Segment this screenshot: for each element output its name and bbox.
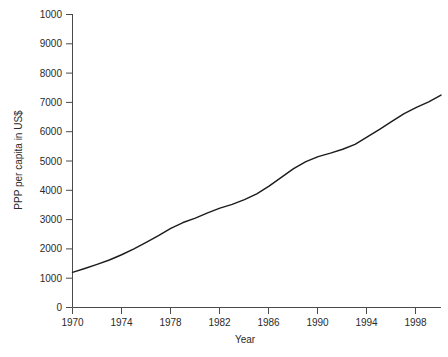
y-tick-label-8000: 8000 (40, 68, 63, 79)
y-axis-title: PPP per capita in US$ (13, 110, 24, 210)
y-tick-label-9000: 9000 (40, 38, 63, 49)
x-tick-label-1994: 1994 (355, 317, 378, 328)
x-tick-label-1978: 1978 (159, 317, 182, 328)
ppp-per-capita-line-chart: 1000 9000 8000 7000 6000 5000 4000 3000 … (0, 0, 448, 357)
chart-container: 1000 9000 8000 7000 6000 5000 4000 3000 … (0, 0, 448, 357)
y-tick-label-1000: 1000 (40, 273, 63, 284)
y-tick-label-4000: 4000 (40, 185, 63, 196)
y-tick-label-0: 0 (56, 302, 62, 313)
x-tick-label-1982: 1982 (208, 317, 231, 328)
y-tick-label-10000: 1000 (40, 9, 63, 20)
x-tick-label-1998: 1998 (404, 317, 427, 328)
y-tick-label-7000: 7000 (40, 97, 63, 108)
x-tick-label-1974: 1974 (110, 317, 133, 328)
x-tick-label-1990: 1990 (306, 317, 329, 328)
x-tick-label-1986: 1986 (257, 317, 280, 328)
y-tick-label-2000: 2000 (40, 243, 63, 254)
x-tick-label-1970: 1970 (61, 317, 84, 328)
y-tick-label-6000: 6000 (40, 126, 63, 137)
y-tick-label-3000: 3000 (40, 214, 63, 225)
x-axis-title: Year (235, 334, 256, 345)
chart-background (0, 0, 448, 357)
y-tick-label-5000: 5000 (40, 156, 63, 167)
